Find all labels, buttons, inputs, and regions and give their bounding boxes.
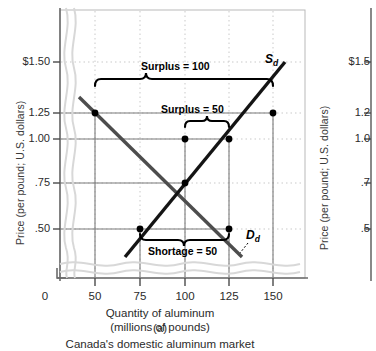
x-tick-label-75: 75 [125,290,155,302]
panel-b-y-tick-050: .5 [322,222,370,234]
supply-curve-label-sub: d [273,58,278,68]
y-tick-label-125: 1.25 [0,106,50,118]
annotation-shortage-50: Shortage = 50 [148,245,217,257]
panel-b-y-tick-075: .7 [322,176,370,188]
demand-curve-label-sub: d [255,234,260,244]
x-tick-label-100: 100 [170,290,200,302]
marker-50-125 [92,110,99,117]
figure-caption: Canada's domestic aluminum market [0,338,348,350]
plot-area-border [60,10,305,278]
y-tick-label-100: 1.00 [0,132,50,144]
x-tick-label-150: 150 [258,290,288,302]
panel-letter: (a) [0,322,348,334]
x-axis-title-line1: Quantity of aluminum [0,307,348,319]
panel-b-y-tick-125: 1.2 [322,106,370,118]
supply-curve-label: Sd [265,52,278,68]
supply-curve-label-main: S [265,52,273,66]
marker-125-100 [226,136,233,143]
x-axis-ticks [95,278,273,286]
y-tick-label-050: .50 [0,222,50,234]
x-tick-label-50: 50 [80,290,110,302]
x-tick-label-125: 125 [214,290,244,302]
annotation-surplus-100: Surplus = 100 [141,60,210,72]
marker-150-125 [270,110,277,117]
marker-equilibrium-100-075 [182,180,189,187]
marker-75-050 [137,226,144,233]
x-tick-label-0: 0 [30,290,60,302]
panel-b-y-ticks [364,62,371,229]
y-tick-label-150: $1.50 [0,55,50,67]
annotation-surplus-50: Surplus = 50 [161,103,224,115]
marker-100-100 [182,136,189,143]
marker-125-050 [226,226,233,233]
y-axis-ticks [53,62,60,229]
panel-b-y-tick-150: $1.5 [322,55,370,67]
panel-b-y-tick-100: 1.0 [322,132,370,144]
demand-curve-label-main: D [246,228,255,242]
y-tick-label-075: .75 [0,176,50,188]
demand-curve-label: Dd [246,228,260,244]
figure-panel-a: Price (per pound; U.S. dollars) $1.50 1.… [0,0,376,351]
